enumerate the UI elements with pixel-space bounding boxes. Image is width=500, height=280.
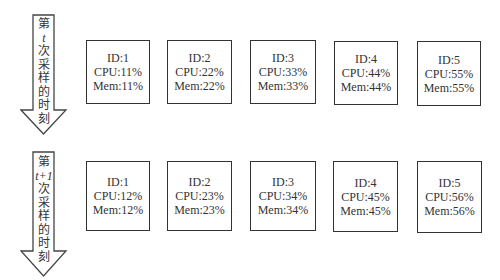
cpu-usage: CPU:11% bbox=[94, 65, 142, 79]
process-box-5-t-plus-1: ID:5 CPU:56% Mem:56% bbox=[417, 161, 482, 233]
process-box-2-t: ID:2 CPU:22% Mem:22% bbox=[167, 40, 232, 104]
process-box-1-t-plus-1: ID:1 CPU:12% Mem:12% bbox=[86, 161, 150, 231]
process-box-2-t-plus-1: ID:2 CPU:23% Mem:23% bbox=[167, 161, 232, 231]
cpu-usage: CPU:45% bbox=[341, 190, 390, 204]
cpu-usage: CPU:56% bbox=[425, 190, 474, 204]
process-id: ID:2 bbox=[189, 51, 211, 65]
process-box-1-t: ID:1 CPU:11% Mem:11% bbox=[86, 40, 150, 104]
process-id: ID:1 bbox=[107, 51, 129, 65]
cpu-usage: CPU:22% bbox=[175, 65, 224, 79]
mem-usage: Mem:45% bbox=[340, 204, 391, 218]
mem-usage: Mem:55% bbox=[424, 81, 475, 95]
process-id: ID:2 bbox=[189, 175, 211, 189]
mem-usage: Mem:56% bbox=[424, 204, 475, 218]
mem-usage: Mem:34% bbox=[258, 203, 309, 217]
process-id: ID:4 bbox=[355, 176, 377, 190]
cpu-usage: CPU:34% bbox=[259, 189, 308, 203]
process-box-4-t-plus-1: ID:4 CPU:45% Mem:45% bbox=[333, 161, 398, 232]
process-id: ID:4 bbox=[355, 52, 377, 66]
mem-usage: Mem:44% bbox=[341, 80, 392, 94]
arrow-label-t-plus-1: 第 t+1 次 采 样 的 时 刻 bbox=[20, 156, 68, 264]
mem-usage: Mem:12% bbox=[93, 203, 144, 217]
time-arrow-t-plus-1: 第 t+1 次 采 样 的 时 刻 bbox=[20, 151, 68, 278]
cpu-usage: CPU:44% bbox=[342, 66, 391, 80]
process-box-3-t-plus-1: ID:3 CPU:34% Mem:34% bbox=[250, 161, 316, 231]
cpu-usage: CPU:23% bbox=[175, 189, 224, 203]
process-box-3-t: ID:3 CPU:33% Mem:33% bbox=[250, 40, 316, 104]
arrow-label-t: 第 t 次 采 样 的 时 刻 bbox=[20, 18, 68, 126]
cpu-usage: CPU:33% bbox=[259, 65, 308, 79]
mem-usage: Mem:11% bbox=[93, 79, 143, 93]
mem-usage: Mem:23% bbox=[174, 203, 225, 217]
process-id: ID:3 bbox=[272, 175, 294, 189]
process-id: ID:3 bbox=[272, 51, 294, 65]
process-box-4-t: ID:4 CPU:44% Mem:44% bbox=[334, 41, 398, 105]
mem-usage: Mem:22% bbox=[174, 79, 225, 93]
process-id: ID:5 bbox=[439, 176, 461, 190]
process-id: ID:1 bbox=[107, 175, 129, 189]
cpu-usage: CPU:55% bbox=[425, 67, 474, 81]
cpu-usage: CPU:12% bbox=[94, 189, 143, 203]
process-box-5-t: ID:5 CPU:55% Mem:55% bbox=[417, 41, 481, 106]
process-id: ID:5 bbox=[438, 53, 460, 67]
time-arrow-t: 第 t 次 采 样 的 时 刻 bbox=[20, 14, 68, 136]
mem-usage: Mem:33% bbox=[258, 79, 309, 93]
